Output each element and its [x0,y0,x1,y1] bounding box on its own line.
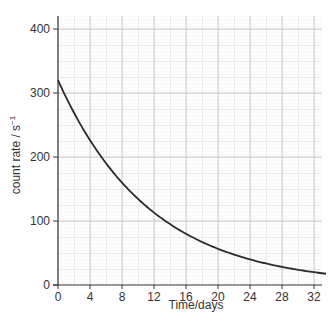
x-tick-label: 24 [243,290,257,304]
x-tick-label: 0 [55,290,62,304]
x-tick-label: 28 [275,290,289,304]
x-tick-label: 32 [307,290,321,304]
decay-chart: 048121620242832 0100200300400 Time/days … [0,0,333,328]
y-tick-label: 200 [30,150,50,164]
y-axis-title: count rate / s−1 [8,115,23,194]
y-axis-ticks: 0100200300400 [30,22,58,292]
x-tick-label: 12 [147,290,161,304]
y-tick-label: 0 [43,278,50,292]
x-axis-title: Time/days [169,298,224,312]
x-tick-label: 4 [87,290,94,304]
y-tick-label: 100 [30,214,50,228]
y-tick-label: 300 [30,86,50,100]
y-tick-label: 400 [30,22,50,36]
x-tick-label: 8 [119,290,126,304]
